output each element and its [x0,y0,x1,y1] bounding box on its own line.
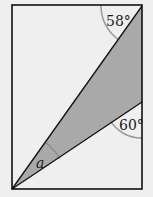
angle-label-60: 60° [119,117,144,133]
geometry-diagram: 58° 60° a [0,0,153,197]
angle-label-58: 58° [106,13,131,29]
angle-label-a: a [36,155,44,171]
